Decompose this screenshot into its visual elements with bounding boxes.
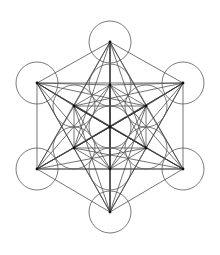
node-center: [109, 126, 112, 129]
node-outer-bottom: [109, 211, 112, 214]
node-inner-bottom: [109, 168, 112, 171]
metatrons-cube-figure: Metatron's Cube: [0, 0, 220, 255]
node-inner-upper-left: [73, 105, 76, 108]
node-outer-lower-left: [36, 168, 39, 171]
node-outer-lower-right: [182, 168, 185, 171]
node-inner-lower-left: [73, 147, 76, 150]
node-outer-top: [109, 41, 112, 44]
node-inner-lower-right: [145, 147, 148, 150]
node-inner-top: [109, 84, 112, 87]
node-outer-upper-left: [36, 82, 39, 85]
node-inner-upper-right: [145, 105, 148, 108]
node-outer-upper-right: [182, 82, 185, 85]
